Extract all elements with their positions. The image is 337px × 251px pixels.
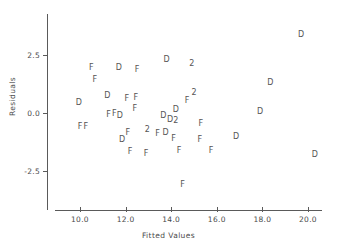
- data-point-marker: D: [171, 106, 181, 114]
- y-axis-title: Residuals: [8, 52, 17, 142]
- data-point-marker: F: [178, 181, 188, 189]
- data-point-marker: D: [231, 133, 241, 141]
- data-point-marker: F: [86, 64, 96, 72]
- data-point-marker: F: [131, 94, 141, 102]
- data-point-marker: F: [90, 76, 100, 84]
- scatter-plot-figure: 10.012.014.016.018.020.02.50.0-2.5 DD2FD…: [0, 0, 337, 251]
- data-point-marker: F: [130, 105, 140, 113]
- data-point-marker: D: [74, 99, 84, 107]
- data-point-marker: F: [196, 120, 206, 128]
- data-point-marker: 2: [189, 89, 199, 97]
- x-axis-title: Fitted Values: [0, 231, 337, 240]
- data-point-marker: F: [132, 66, 142, 74]
- data-point-marker: F: [182, 97, 192, 105]
- data-point-marker: F: [195, 136, 205, 144]
- data-point-marker: F: [141, 150, 151, 158]
- data-point-marker: F: [168, 135, 178, 143]
- data-point-marker: F: [125, 148, 135, 156]
- data-point-marker: 2: [142, 126, 152, 134]
- data-point-marker: D: [296, 31, 306, 39]
- data-point-layer: DD2FDFFD2DFFFDFDDFFDDD2FFF2FFDDDFFFFFFDF: [0, 0, 337, 251]
- data-point-marker: D: [117, 136, 127, 144]
- data-point-marker: D: [115, 112, 125, 120]
- data-point-marker: D: [255, 108, 265, 116]
- data-point-marker: F: [174, 147, 184, 155]
- data-point-marker: 2: [171, 117, 181, 125]
- data-point-marker: D: [102, 92, 112, 100]
- data-point-marker: D: [265, 79, 275, 87]
- data-point-marker: F: [81, 123, 91, 131]
- data-point-marker: D: [310, 151, 320, 159]
- data-point-marker: D: [162, 56, 172, 64]
- data-point-marker: 2: [187, 60, 197, 68]
- data-point-marker: D: [114, 64, 124, 72]
- data-point-marker: F: [206, 147, 216, 155]
